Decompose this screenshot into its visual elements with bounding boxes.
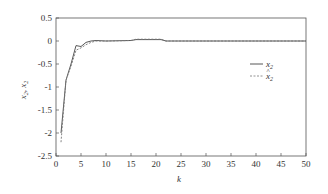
y-tick-label: -1.5: [38, 105, 53, 115]
x-tick-label: 0: [54, 159, 59, 169]
x-tick-label: 25: [177, 159, 187, 169]
x-tick-label: 10: [102, 159, 112, 169]
y-tick-label: -2.5: [38, 151, 53, 161]
plot-frame: [56, 18, 306, 156]
x-tick-label: 30: [202, 159, 212, 169]
y-tick-label: 0: [48, 36, 53, 46]
legend: x2 x2 ^: [250, 59, 273, 82]
x-tick-label: 50: [302, 159, 312, 169]
x-axis-ticks: 05101520253035404550: [54, 153, 311, 169]
y-axis-label: x2, x2: [18, 81, 29, 101]
x-tick-label: 40: [252, 159, 262, 169]
series-x2: [61, 40, 306, 133]
x-tick-label: 35: [227, 159, 237, 169]
series-lines: [61, 39, 306, 142]
x-tick-label: 5: [79, 159, 84, 169]
y-tick-label: -1: [45, 82, 53, 92]
series-x2-hat: [61, 39, 306, 142]
x-tick-label: 45: [277, 159, 287, 169]
x-tick-label: 15: [127, 159, 137, 169]
line-chart: 0.50-0.5-1-1.5-2-2.5 0510152025303540455…: [0, 0, 328, 194]
x-axis-label: k: [177, 174, 182, 184]
svg-text:x2, x2: x2, x2: [18, 81, 29, 101]
y-tick-label: -0.5: [38, 59, 53, 69]
y-tick-label: -2: [45, 128, 53, 138]
y-tick-label: 0.5: [41, 13, 53, 23]
x-tick-label: 20: [152, 159, 162, 169]
